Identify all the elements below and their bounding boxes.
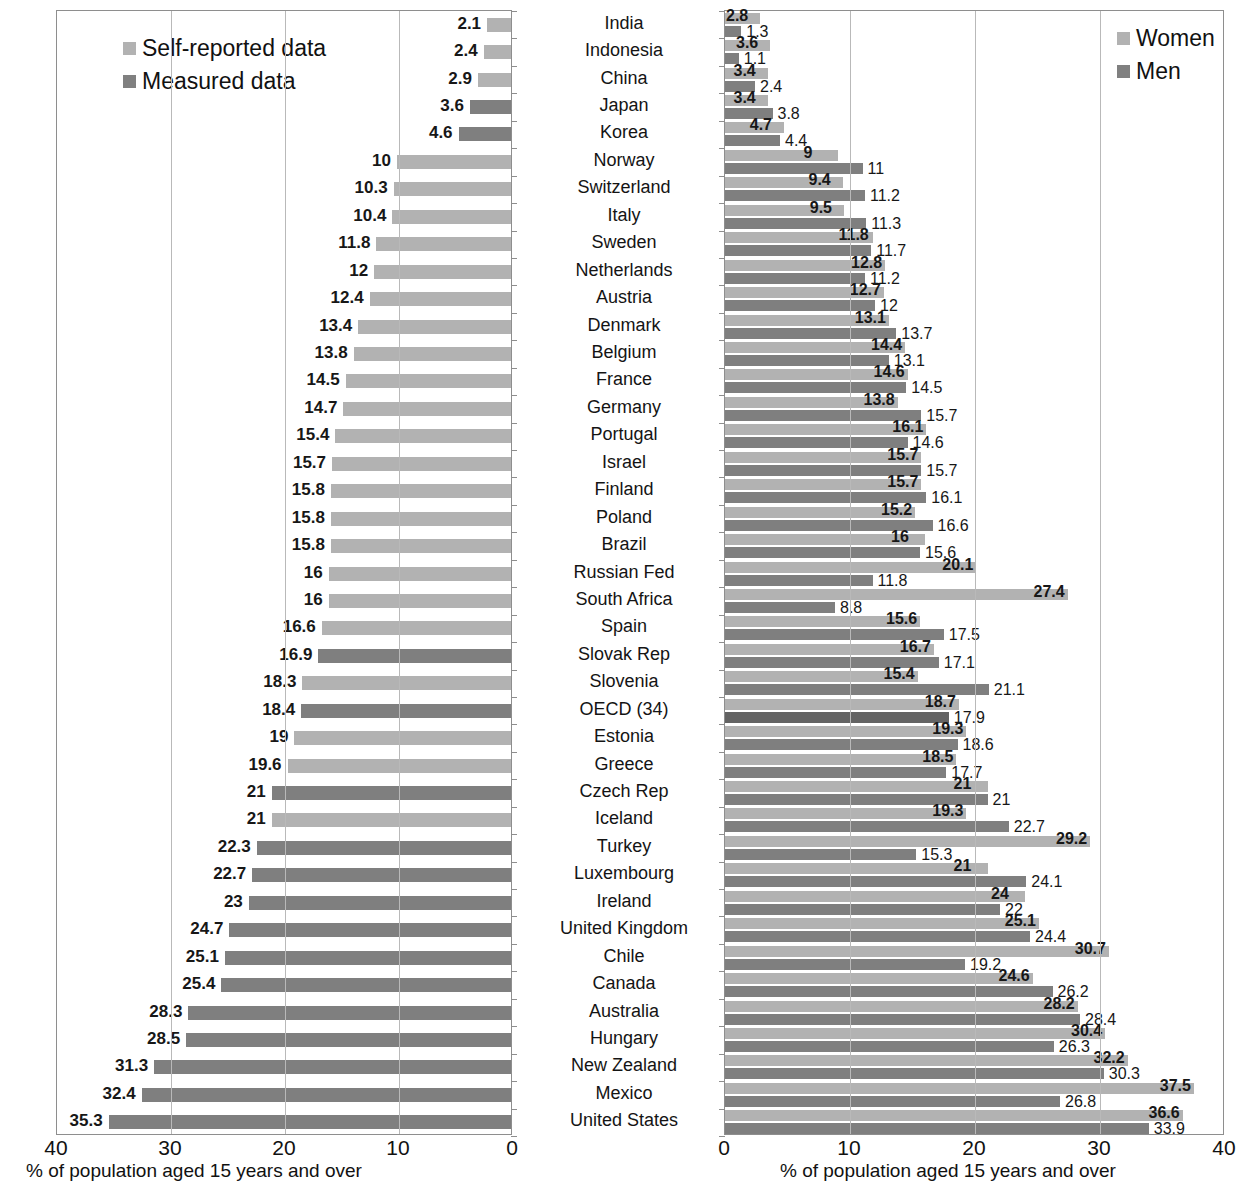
right-chart-legend: WomenMen: [1117, 25, 1215, 91]
bar-self-reported: [376, 237, 511, 251]
country-label: Czech Rep: [540, 782, 708, 800]
bar-measured: [249, 896, 511, 910]
country-label: Poland: [540, 508, 708, 526]
bar-women: [725, 973, 1033, 984]
bar-value-label-women: 15.2: [881, 503, 912, 517]
gridline: [1100, 11, 1101, 1134]
bar-value-label-men: 11.2: [870, 189, 900, 203]
bar-value-label: 16: [304, 566, 323, 580]
bar-value-label-women: 29.2: [1056, 832, 1087, 846]
axis-tick: [511, 93, 517, 94]
bar-value-label-men: 21: [993, 793, 1011, 807]
axis-tick: [719, 505, 725, 506]
bar-value-label: 19.6: [248, 758, 281, 772]
country-label: United Kingdom: [540, 919, 708, 937]
bar-women: [725, 699, 959, 710]
axis-tick: [511, 38, 517, 39]
axis-tick: [511, 423, 517, 424]
bar-self-reported: [392, 210, 511, 224]
bar-value-label-women: 15.7: [887, 475, 918, 489]
axis-tick: [511, 258, 517, 259]
bar-self-reported: [272, 813, 511, 827]
axis-tick: [511, 1109, 517, 1110]
axis-tick: [511, 450, 517, 451]
bar-men: [725, 931, 1030, 942]
country-label: Germany: [540, 398, 708, 416]
axis-tick: [511, 615, 517, 616]
axis-tick: [719, 148, 725, 149]
axis-tick: [511, 532, 517, 533]
axis-tick: [719, 231, 725, 232]
bar-self-reported: [329, 594, 511, 608]
bar-value-label: 4.6: [429, 126, 453, 140]
left-chart-legend: Self-reported dataMeasured data: [123, 35, 326, 101]
bar-value-label: 10.4: [353, 209, 386, 223]
axis-tick: [719, 121, 725, 122]
bar-value-label-men: 11.3: [871, 217, 901, 231]
bar-self-reported: [478, 73, 511, 87]
bar-women: [725, 836, 1090, 847]
bar-value-label: 25.4: [182, 977, 215, 991]
bar-women: [725, 150, 838, 161]
legend-label: Measured data: [142, 68, 295, 95]
legend-item-dark: Men: [1117, 58, 1215, 85]
left-chart-panel: 2.12.42.93.64.61010.310.411.81212.413.41…: [0, 0, 540, 1184]
bar-value-label-women: 9: [804, 146, 813, 160]
axis-tick: [719, 670, 725, 671]
axis-tick: [719, 834, 725, 835]
bar-value-label-men: 11: [868, 162, 885, 176]
country-label: Slovenia: [540, 672, 708, 690]
axis-tick: [511, 834, 517, 835]
bar-value-label-women: 3.4: [734, 64, 756, 78]
bar-men: [725, 876, 1026, 887]
axis-tick: [719, 66, 725, 67]
axis-tick: [719, 615, 725, 616]
bar-value-label-women: 16.7: [900, 640, 931, 654]
x-tick-label: 20: [962, 1136, 985, 1160]
bar-value-label: 10: [372, 154, 391, 168]
bar-value-label-men: 15.7: [926, 409, 957, 423]
bar-women: [725, 1055, 1128, 1066]
right-chart-panel: 2.81.33.61.13.42.43.43.84.74.49119.411.2…: [708, 0, 1234, 1184]
left-x-axis: 403020100: [56, 1136, 512, 1162]
bar-self-reported: [374, 265, 511, 279]
bar-value-label: 14.7: [304, 401, 337, 415]
axis-tick: [511, 368, 517, 369]
axis-tick: [511, 862, 517, 863]
axis-tick: [511, 313, 517, 314]
axis-tick: [719, 752, 725, 753]
country-label: Estonia: [540, 727, 708, 745]
bar-value-label-men: 22.7: [1014, 820, 1045, 834]
bar-value-label: 24.7: [190, 922, 223, 936]
bar-value-label: 35.3: [70, 1114, 103, 1128]
x-tick-label: 40: [1212, 1136, 1235, 1160]
bar-value-label-men: 15.3: [921, 848, 952, 862]
bar-value-label-women: 20.1: [942, 558, 973, 572]
bar-value-label: 22.3: [218, 840, 251, 854]
left-plot-area: 2.12.42.93.64.61010.310.411.81212.413.41…: [56, 10, 512, 1135]
bar-men: [725, 547, 920, 558]
bar-value-label-women: 14.4: [871, 338, 902, 352]
bar-women: [725, 863, 988, 874]
bar-self-reported: [484, 45, 511, 59]
country-label: Norway: [540, 151, 708, 169]
axis-tick: [719, 477, 725, 478]
country-label: South Africa: [540, 590, 708, 608]
country-label: Ireland: [540, 892, 708, 910]
bar-value-label: 25.1: [186, 950, 219, 964]
gridline: [285, 11, 286, 1134]
bar-measured: [154, 1060, 511, 1074]
bar-value-label: 12: [349, 264, 368, 278]
bar-value-label-women: 19.3: [932, 722, 963, 736]
bar-self-reported: [358, 320, 511, 334]
country-label: Iceland: [540, 809, 708, 827]
gridline: [850, 11, 851, 1134]
bar-value-label: 2.4: [454, 44, 478, 58]
bar-value-label-men: 26.8: [1065, 1095, 1096, 1109]
bar-value-label-men: 3.8: [778, 107, 800, 121]
country-label: Australia: [540, 1002, 708, 1020]
country-label: Belgium: [540, 343, 708, 361]
bar-value-label: 18.3: [263, 675, 296, 689]
bar-self-reported: [370, 292, 511, 306]
country-label: United States: [540, 1111, 708, 1129]
